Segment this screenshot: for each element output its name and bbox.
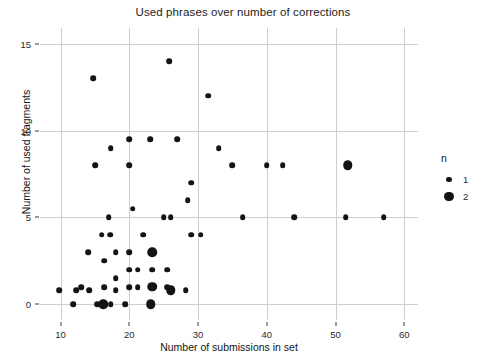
chart-title: Used phrases over number of corrections <box>0 6 486 18</box>
data-point <box>343 161 353 171</box>
data-point <box>147 247 157 257</box>
data-point <box>230 163 236 169</box>
grid-line-horizontal <box>40 44 418 45</box>
x-tick-label: 20 <box>124 329 135 340</box>
data-point <box>122 302 128 308</box>
data-point <box>113 275 119 281</box>
legend-entry: 1 <box>440 171 484 188</box>
data-point <box>70 302 76 308</box>
data-point <box>147 282 157 292</box>
data-point <box>92 163 98 169</box>
data-point <box>99 232 105 238</box>
x-tick-mark <box>404 322 405 326</box>
data-point <box>166 286 176 296</box>
legend-dot-icon <box>440 177 458 183</box>
data-point <box>183 288 189 294</box>
x-tick-label: 30 <box>193 329 204 340</box>
y-tick-mark <box>35 304 39 305</box>
data-point <box>101 284 107 290</box>
x-tick-label: 40 <box>262 329 273 340</box>
data-point <box>127 267 133 273</box>
x-tick-label: 50 <box>330 329 341 340</box>
x-tick-mark <box>266 322 267 326</box>
data-point <box>130 206 136 212</box>
data-point <box>146 300 156 310</box>
data-point <box>56 288 62 294</box>
data-point <box>240 215 246 221</box>
x-tick-mark <box>335 322 336 326</box>
legend-entry-label: 1 <box>463 174 468 185</box>
legend-title: n <box>440 152 484 164</box>
y-tick-mark <box>35 130 39 131</box>
data-point <box>127 249 133 255</box>
legend: n 12 <box>440 152 484 205</box>
data-point <box>166 58 172 64</box>
data-point <box>168 215 174 221</box>
data-point <box>175 136 181 142</box>
data-point <box>264 163 270 169</box>
plot-area <box>40 28 418 320</box>
data-point <box>106 215 112 221</box>
legend-entries: 12 <box>440 171 484 205</box>
y-tick-mark <box>35 43 39 44</box>
legend-entry-label: 2 <box>463 191 468 202</box>
data-point <box>87 288 93 294</box>
x-tick-mark <box>60 322 61 326</box>
data-point <box>107 232 113 238</box>
x-tick-mark <box>129 322 130 326</box>
x-tick-mark <box>198 322 199 326</box>
data-point <box>161 215 167 221</box>
grid-line-vertical <box>129 28 130 320</box>
data-point <box>127 284 133 290</box>
data-point <box>108 145 114 151</box>
data-point <box>188 180 194 186</box>
grid-line-vertical <box>267 28 268 320</box>
data-point <box>135 267 141 273</box>
grid-line-vertical <box>404 28 405 320</box>
data-point <box>127 136 133 142</box>
data-point <box>98 300 108 310</box>
data-point <box>188 232 194 238</box>
data-point <box>90 76 96 82</box>
data-point <box>216 145 222 151</box>
data-point <box>164 267 170 273</box>
data-point <box>135 284 141 290</box>
data-point <box>113 288 119 294</box>
data-point <box>381 215 387 221</box>
data-point <box>343 215 349 221</box>
data-point <box>280 163 286 169</box>
grid-line-vertical <box>198 28 199 320</box>
scatter-chart: Used phrases over number of corrections … <box>0 0 486 364</box>
data-point <box>101 258 107 264</box>
data-point <box>74 288 80 294</box>
data-point <box>108 302 114 308</box>
data-point <box>113 249 119 255</box>
data-point <box>140 232 146 238</box>
data-point <box>147 136 153 142</box>
data-point <box>149 267 155 273</box>
grid-line-vertical <box>61 28 62 320</box>
x-tick-label: 60 <box>399 329 410 340</box>
data-point <box>127 163 133 169</box>
data-point <box>85 249 91 255</box>
x-axis-title: Number of submissions in set <box>40 341 418 353</box>
legend-entry: 2 <box>440 188 484 205</box>
legend-dot-icon <box>440 192 458 202</box>
data-point <box>185 197 191 203</box>
grid-line-horizontal <box>40 131 418 132</box>
data-point <box>206 93 212 99</box>
y-axis-title: Number of used fragments <box>20 6 32 298</box>
data-point <box>291 215 297 221</box>
y-tick-label: 0 <box>26 299 31 310</box>
grid-line-vertical <box>336 28 337 320</box>
data-point <box>78 284 84 290</box>
y-tick-mark <box>35 217 39 218</box>
data-point <box>198 232 204 238</box>
grid-line-horizontal <box>40 217 418 218</box>
x-tick-label: 10 <box>55 329 66 340</box>
